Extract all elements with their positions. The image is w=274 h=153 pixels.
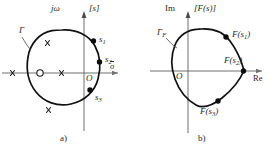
origin-label-b: O <box>176 72 183 81</box>
pole-markers <box>11 41 64 113</box>
point-s2-dot <box>97 59 102 64</box>
pole-marker-upper <box>46 41 50 46</box>
figure-root: jω [s] σ Γ O s1 s2 s3 a) <box>0 0 274 153</box>
contour-gamma <box>27 30 100 105</box>
point-s2-label: s2 <box>105 55 112 64</box>
gamma-leader-line <box>22 37 31 50</box>
point-s1-label: s1 <box>99 35 106 44</box>
point-fs2-dot <box>241 68 246 73</box>
panel-a-drawing <box>0 0 140 153</box>
contour-gamma-label: Γ <box>19 26 24 35</box>
contour-gamma-f <box>172 29 244 107</box>
point-s3-label: s3 <box>95 93 102 102</box>
fs-plane-tag-label: [F(s)] <box>194 4 216 13</box>
panel-a-letter: a) <box>60 134 67 143</box>
point-fs1-dot <box>223 34 228 39</box>
re-axis-label: Re <box>253 74 262 83</box>
panel-a-s-plane: jω [s] σ Γ O s1 s2 s3 a) <box>0 0 140 153</box>
pole-marker-lower <box>47 108 51 113</box>
point-s3-dot <box>87 87 92 92</box>
panel-b-letter: b) <box>198 134 206 143</box>
point-s1-dot <box>91 38 96 43</box>
origin-label-a: O <box>86 74 93 83</box>
point-fs3-dot <box>215 98 220 103</box>
jomega-axis-label: jω <box>51 4 60 13</box>
zero-marker <box>37 70 43 76</box>
jomega-axis <box>82 11 87 131</box>
panel-b-fs-plane: Im [F(s)] Re ΓF O F(s1) F(s2) F(s3) b) <box>140 0 274 153</box>
point-fs2-label: F(s2) <box>224 56 242 65</box>
point-fs3-label: F(s3) <box>200 107 218 116</box>
im-axis <box>186 11 191 133</box>
point-fs1-label: F(s1) <box>232 30 250 39</box>
s-plane-tag-label: [s] <box>89 4 100 13</box>
im-axis-label: Im <box>165 4 175 13</box>
contour-gamma-f-label: ΓF <box>157 28 166 37</box>
contour-point-markers-f <box>215 34 246 103</box>
